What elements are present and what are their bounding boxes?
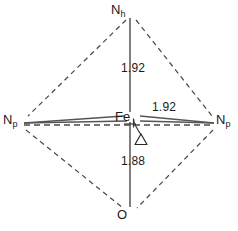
bond-distance-label-axial-top: 1.92 [121, 62, 145, 74]
bond-distance-label-equatorial-right: 1.92 [152, 101, 176, 113]
vertex-label-nitrogen-equatorial-left: Np [3, 113, 17, 129]
vertex-label-nitrogen-equatorial-right: Np [216, 113, 230, 129]
edge-npright-to-oaxial [137, 130, 213, 208]
vertex-subscript: h [120, 9, 125, 19]
vertex-element-symbol: N [3, 112, 12, 127]
displacement-leader-line [134, 119, 142, 135]
vertex-element-symbol: N [216, 112, 225, 127]
delta-triangle-icon [135, 134, 147, 145]
displacement-leader-path [134, 119, 142, 135]
bond-distance-label-axial-bottom: 1.88 [121, 155, 145, 167]
center-atom-label: Fe [115, 110, 130, 123]
vertex-element-symbol: O [117, 207, 127, 222]
edge-npleft-to-oaxial [26, 130, 123, 208]
delta-triangle-shape [135, 134, 147, 145]
vertex-element-symbol: N [111, 2, 120, 17]
vertex-label-oxygen-axial-bottom: O [117, 208, 127, 224]
vertex-subscript: p [225, 119, 230, 129]
vertex-subscript: p [12, 119, 17, 129]
vertex-label-nitrogen-axial-top: Nh [111, 3, 125, 19]
coordination-geometry-figure: Nh Np Np O Fe 1.92 1.92 1.88 [0, 0, 238, 231]
edge-naxial-to-npleft [28, 20, 126, 116]
